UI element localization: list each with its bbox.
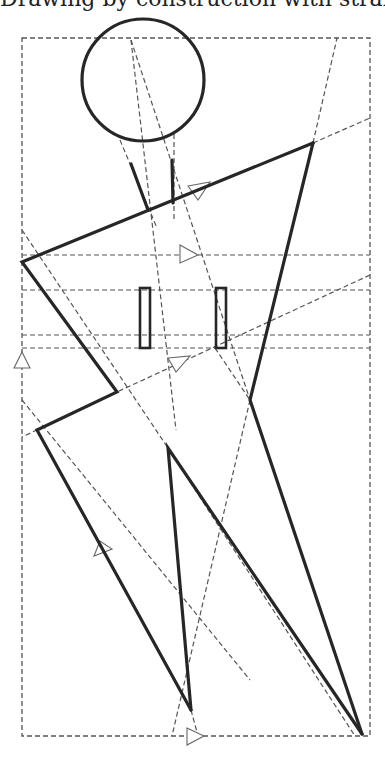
buttons [140,288,226,348]
arrow-right-icon [168,356,190,372]
bounding-frame [22,38,370,736]
head [82,19,204,141]
torso-outline [22,143,362,734]
legs [168,448,362,734]
left-rectangle [140,288,150,348]
arrow-right-icon [187,728,204,745]
construction-guides [22,38,370,736]
arrow-right-icon [180,245,198,263]
right-rectangle [216,288,226,348]
arrow-up-icon [14,352,30,368]
construction-figure [0,0,385,774]
arrow-markers [14,182,210,745]
